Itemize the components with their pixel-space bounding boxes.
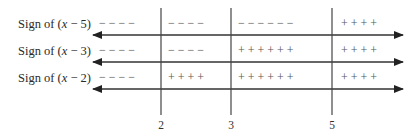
critical-point-label-2: 2 xyxy=(158,119,164,131)
signs-row1-interval1: − − − − xyxy=(99,16,135,31)
critical-point-label-5: 5 xyxy=(329,119,335,131)
signs-row2-interval3: + + + + + + xyxy=(238,43,294,58)
signs-row3-interval3: + + + + + + xyxy=(238,70,294,85)
signs-row1-interval2: − − − − xyxy=(168,16,204,31)
signs-row2-interval4: + + + + xyxy=(341,43,377,58)
label-prefix: Sign of ( xyxy=(18,44,62,58)
critical-point-label-3: 3 xyxy=(228,119,234,131)
signs-row2-interval2: − − − − xyxy=(168,43,204,58)
row-label-x-minus-3: Sign of (x − 3) xyxy=(18,44,91,59)
label-suffix: − 5) xyxy=(67,17,91,31)
label-suffix: − 2) xyxy=(67,71,91,85)
label-prefix: Sign of ( xyxy=(18,71,62,85)
signs-row1-interval3: − − − − − − xyxy=(238,16,294,31)
signs-row3-interval2: + + + + xyxy=(168,70,204,85)
signs-row2-interval1: − − − − xyxy=(99,43,135,58)
signs-row1-interval4: + + + + xyxy=(341,16,377,31)
label-suffix: − 3) xyxy=(67,44,91,58)
row-label-x-minus-2: Sign of (x − 2) xyxy=(18,71,91,86)
signs-row3-interval1: − − − − xyxy=(99,70,135,85)
row-label-x-minus-5: Sign of (x − 5) xyxy=(18,17,91,32)
signs-row3-interval4: + + + + xyxy=(341,70,377,85)
label-prefix: Sign of ( xyxy=(18,17,62,31)
